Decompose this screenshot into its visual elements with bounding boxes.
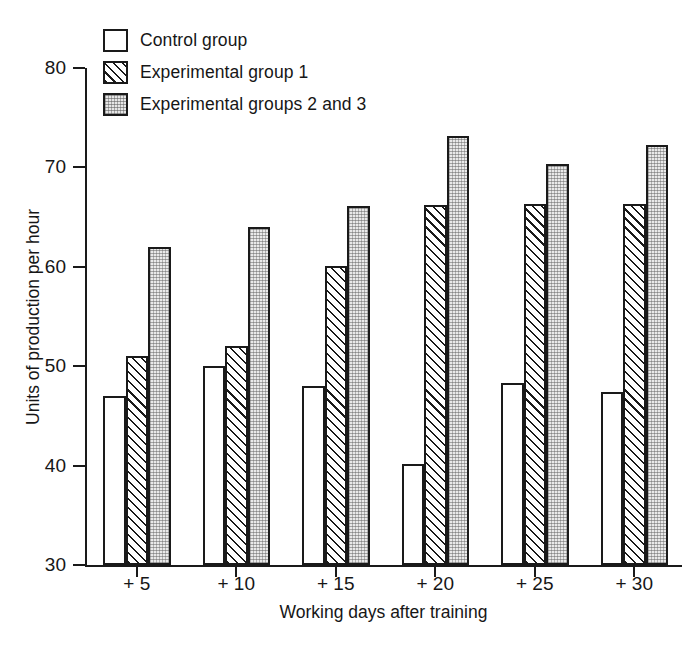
bar [546, 164, 569, 565]
y-axis-tick-label: 40 [45, 455, 66, 477]
y-axis-tick: 40 [73, 465, 85, 467]
x-axis-category-label: + 15 [317, 573, 355, 595]
y-axis-tick: 50 [73, 365, 85, 367]
bar [203, 366, 226, 565]
y-axis-tick-label: 50 [45, 355, 66, 377]
bar [148, 247, 171, 565]
bar [302, 386, 325, 565]
bar-group [402, 68, 470, 565]
bar-group [601, 68, 669, 565]
x-axis-category-label: + 10 [217, 573, 255, 595]
y-axis-tick: 60 [73, 266, 85, 268]
legend-label-control-group: Control group [140, 30, 247, 51]
bar-group [302, 68, 370, 565]
y-axis-tick-label: 70 [45, 156, 66, 178]
bar [347, 206, 370, 565]
y-axis-tick: 80 [73, 67, 85, 69]
y-axis-tick-label: 30 [45, 554, 66, 576]
x-axis-category-label: + 5 [123, 573, 150, 595]
legend-item-control-group: Control group [103, 24, 443, 56]
bar [103, 396, 126, 565]
bar-group [203, 68, 271, 565]
bar [225, 346, 248, 565]
y-axis-tick-label: 80 [45, 57, 66, 79]
bar [601, 392, 624, 565]
bar [524, 204, 547, 565]
x-axis-category-label: + 25 [516, 573, 554, 595]
x-axis-category-label: + 30 [615, 573, 653, 595]
legend-swatch-control-group-icon [103, 29, 128, 52]
x-axis-line [85, 565, 682, 567]
bar [623, 204, 646, 565]
bar [126, 356, 149, 565]
y-axis-tick: 70 [73, 166, 85, 168]
y-axis-tick-label: 60 [45, 256, 66, 278]
bar [424, 205, 447, 565]
bar [402, 464, 425, 565]
bar [646, 145, 669, 565]
bar [248, 227, 271, 565]
bar [447, 136, 470, 565]
bar-group [103, 68, 171, 565]
x-axis-title: Working days after training [85, 602, 682, 623]
y-axis-tick: 30 [73, 564, 85, 566]
x-axis-category-label: + 20 [416, 573, 454, 595]
y-axis-title: Units of production per hour [23, 209, 44, 425]
bar [501, 383, 524, 565]
y-axis-line [85, 68, 87, 565]
bar [325, 266, 348, 565]
bar-group [501, 68, 569, 565]
plot-area: 304050607080 + 5+ 10+ 15+ 20+ 25+ 30 Uni… [85, 68, 682, 565]
bar-chart-figure: Control group Experimental group 1 Exper… [0, 0, 692, 645]
